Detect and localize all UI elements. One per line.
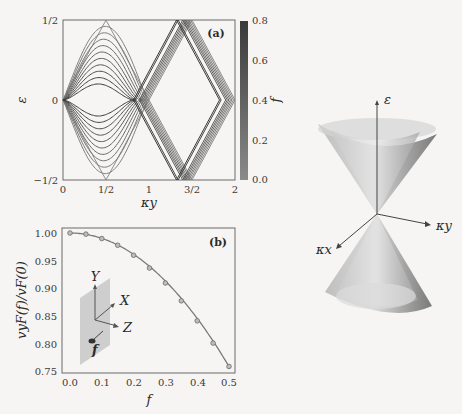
data-point [115, 243, 120, 248]
data-point [147, 266, 152, 271]
arrow-icon [425, 221, 431, 227]
ytick-a: 0 [52, 95, 58, 106]
xtick-a: 0 [60, 184, 66, 195]
xtick-b: 0.4 [190, 377, 206, 388]
band-line [63, 100, 226, 180]
colorbar-tick: 0.2 [252, 135, 268, 146]
band-line [63, 20, 226, 100]
data-point [131, 253, 136, 258]
energy-axis-label: ε [384, 92, 391, 107]
colorbar [240, 21, 248, 180]
ytick-b: 0.90 [35, 283, 57, 294]
xtick-a: 2 [232, 184, 238, 195]
arrow-icon [113, 323, 119, 328]
colorbar-tick: 0.4 [252, 95, 268, 106]
colorbar-tick: 0.6 [252, 55, 268, 66]
ky-axis [377, 214, 427, 224]
ytick-b: 0.95 [35, 256, 57, 267]
arrow-icon [93, 284, 97, 289]
data-point [195, 319, 200, 324]
band-line [63, 100, 227, 180]
xtick-a: 1/2 [98, 184, 114, 195]
inset-x-label: X [119, 293, 130, 308]
band-line [63, 20, 227, 100]
data-point [84, 232, 89, 237]
ylabel-b: vyF(f)/vF(0) [14, 261, 29, 339]
data-point [227, 364, 232, 369]
inset-z-label: Z [122, 320, 133, 335]
data-point [179, 299, 184, 304]
ylabel-a: ε [14, 96, 29, 103]
ytick-b: 1.00 [35, 228, 57, 239]
data-point [163, 281, 168, 286]
xtick-a: 1 [146, 184, 152, 195]
ytick-b: 0.80 [35, 339, 57, 350]
figure: (a) 1/2 0 −1/2 ε 0 1/2 1 3/2 2 κy 0.8 0.… [0, 0, 462, 414]
ky-axis-label: κy [435, 218, 453, 233]
lower-cone-base [336, 283, 416, 309]
ytick-b: 0.85 [35, 311, 57, 322]
panel-b: Y X Z f (b) 1.00 0.95 0.90 0.85 0.80 0.7… [14, 228, 237, 407]
xtick-b: 0.3 [158, 377, 174, 388]
xtick-b: 0.0 [62, 377, 78, 388]
panel-a-label: (a) [207, 27, 225, 40]
xlabel-b: f [146, 392, 154, 407]
band-lines [63, 20, 235, 180]
ytick-a: 1/2 [42, 15, 58, 26]
colorbar-tick: 0.0 [252, 174, 268, 185]
inset-y-label: Y [91, 269, 101, 284]
data-point [211, 341, 216, 346]
dirac-cone: ε κy κx [315, 92, 453, 313]
panel-a: (a) 1/2 0 −1/2 ε 0 1/2 1 3/2 2 κy 0.8 0.… [14, 15, 283, 210]
xtick-b: 0.2 [126, 377, 142, 388]
data-point [100, 236, 105, 241]
kx-axis-label: κx [315, 242, 333, 257]
ytick-b: 0.75 [35, 366, 57, 377]
xlabel-a: κy [140, 195, 158, 210]
data-point [68, 231, 73, 236]
xtick-a: 3/2 [184, 184, 200, 195]
panel-b-label: (b) [209, 236, 227, 249]
colorbar-label: f [268, 95, 283, 103]
xtick-b: 0.1 [94, 377, 110, 388]
arrow-icon [375, 100, 379, 105]
colorbar-tick: 0.8 [252, 15, 268, 26]
xtick-b: 0.5 [221, 377, 237, 388]
ytick-a: −1/2 [34, 175, 58, 186]
